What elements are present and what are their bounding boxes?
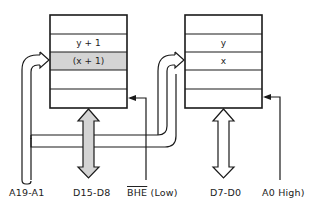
low-data-bus-label: D7-D0 — [210, 187, 241, 198]
a0-state: High) — [275, 187, 305, 198]
cell-x-plus-1: (x + 1) — [73, 56, 104, 66]
cell-x: x — [221, 56, 227, 66]
low-data-bus-arrow — [213, 109, 234, 178]
memory-bank-diagram: y + 1 (x + 1) y x — [0, 0, 310, 205]
a0-label: A0 High) — [262, 187, 305, 198]
address-bus-arrow-left — [22, 52, 49, 184]
address-bus-label: A19-A1 — [9, 187, 45, 198]
cell-y: y — [221, 38, 227, 48]
bhe-signal-line — [128, 95, 146, 180]
cell-y-plus-1: y + 1 — [76, 38, 100, 48]
low-memory-bank: y x — [185, 15, 262, 108]
high-data-bus-arrow — [78, 109, 99, 178]
high-memory-bank: y + 1 (x + 1) — [50, 15, 127, 108]
high-data-bus-label: D15-D8 — [73, 187, 110, 198]
a0-signal-name: A0 — [262, 187, 275, 198]
bhe-signal-name: BHE — [127, 187, 147, 198]
a0-signal-line — [263, 94, 280, 180]
bhe-label: BHE (Low) — [127, 187, 178, 198]
bhe-state: (Low) — [147, 187, 177, 198]
